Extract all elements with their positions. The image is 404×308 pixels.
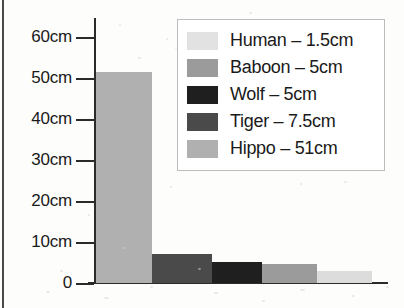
legend-swatch-hippo <box>187 140 218 158</box>
speckle <box>344 181 347 183</box>
legend-swatch-human <box>187 32 218 50</box>
speckle <box>150 286 153 288</box>
legend-swatch-wolf <box>187 86 218 104</box>
legend-label: Human – 1.5cm <box>230 30 353 51</box>
legend-label: Wolf – 5cm <box>230 84 317 105</box>
speckle <box>214 292 218 294</box>
y-tick-mark <box>76 78 94 80</box>
speckle <box>198 268 201 270</box>
bar-hippo <box>96 72 152 283</box>
y-tick-label: 10cm <box>31 233 72 250</box>
speckle <box>88 214 90 216</box>
y-tick-mark <box>76 201 94 203</box>
legend-item-wolf: Wolf – 5cm <box>187 81 384 108</box>
y-tick-mark <box>76 37 94 39</box>
y-tick-label: 50cm <box>31 69 72 86</box>
speckle <box>170 186 172 188</box>
legend-label: Tiger – 7.5cm <box>230 111 335 132</box>
legend-item-tiger: Tiger – 7.5cm <box>187 108 384 135</box>
bar-baboon <box>262 264 317 283</box>
bar-human <box>317 271 372 283</box>
y-tick-label: 40cm <box>31 110 72 127</box>
speckle <box>122 247 125 249</box>
speckle <box>104 297 109 299</box>
y-tick-mark <box>76 160 94 162</box>
y-tick-label: 30cm <box>31 151 72 168</box>
legend-rows: Human – 1.5cmBaboon – 5cmWolf – 5cmTiger… <box>187 27 384 162</box>
bar-chart: 60cm50cm40cm30cm20cm10cm0 Human – 1.5cmB… <box>0 0 404 308</box>
legend: Human – 1.5cmBaboon – 5cmWolf – 5cmTiger… <box>177 19 385 171</box>
speckle <box>300 289 305 291</box>
legend-label: Hippo – 51cm <box>230 138 337 159</box>
y-tick-mark <box>76 242 94 244</box>
speckle <box>119 24 121 26</box>
legend-item-hippo: Hippo – 51cm <box>187 135 384 162</box>
speckle <box>386 286 389 288</box>
bar-tiger <box>152 254 212 283</box>
speckle <box>138 57 141 59</box>
speckle <box>352 295 355 297</box>
legend-swatch-baboon <box>187 59 218 77</box>
y-tick-mark <box>76 283 94 285</box>
speckle <box>46 291 50 293</box>
legend-swatch-tiger <box>187 113 218 131</box>
legend-item-human: Human – 1.5cm <box>187 27 384 54</box>
speckle <box>300 183 302 185</box>
speckle <box>262 300 265 302</box>
speckle <box>249 12 252 14</box>
speckle <box>60 270 63 272</box>
y-tick-mark <box>76 119 94 121</box>
y-tick-label: 60cm <box>31 28 72 45</box>
y-tick-label: 20cm <box>31 192 72 209</box>
bar-wolf <box>212 262 262 283</box>
y-tick-label: 0 <box>63 274 72 291</box>
speckle <box>166 38 168 40</box>
legend-item-baboon: Baboon – 5cm <box>187 54 384 81</box>
legend-label: Baboon – 5cm <box>230 57 342 78</box>
